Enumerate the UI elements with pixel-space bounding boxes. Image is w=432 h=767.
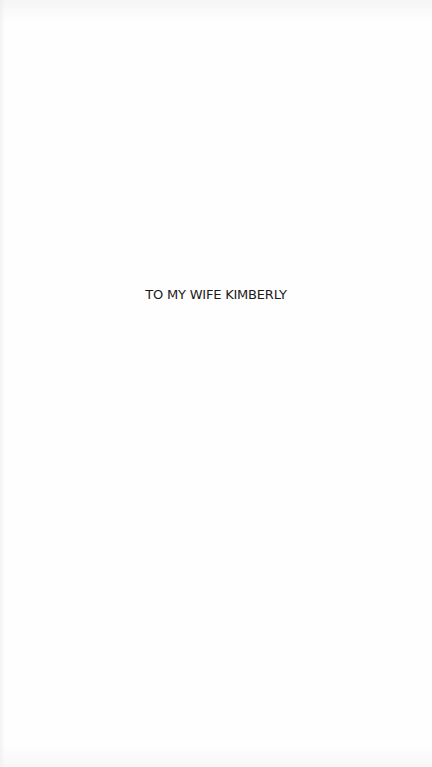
page-bleed-through-bottom bbox=[0, 745, 432, 767]
book-page: TO MY WIFE KIMBERLY bbox=[0, 0, 432, 767]
page-bleed-through-top bbox=[0, 0, 432, 22]
dedication-text: TO MY WIFE KIMBERLY bbox=[0, 285, 432, 305]
page-edge-shadow bbox=[0, 0, 5, 767]
